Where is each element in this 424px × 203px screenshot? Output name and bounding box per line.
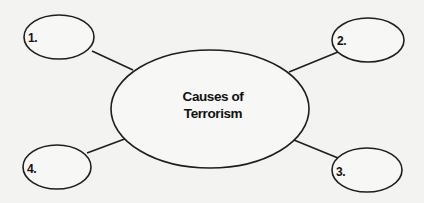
connector-4: [87, 137, 130, 153]
node-2-label: 2.: [337, 34, 346, 48]
node-1[interactable]: 1.: [24, 15, 94, 59]
concept-map: Causes of Terrorism 1. 2. 3. 4.: [0, 0, 424, 203]
center-title-line2: Terrorism: [184, 106, 243, 121]
node-4-label: 4.: [27, 162, 36, 176]
center-title-line1: Causes of: [183, 89, 245, 104]
node-2[interactable]: 2.: [332, 18, 404, 62]
connector-2: [289, 52, 338, 72]
node-4[interactable]: 4.: [23, 145, 91, 189]
connector-1: [92, 51, 133, 70]
center-node: Causes of Terrorism: [111, 50, 309, 168]
node-3[interactable]: 3.: [332, 148, 402, 192]
connector-3: [289, 138, 338, 158]
node-1-label: 1.: [28, 31, 37, 45]
node-3-label: 3.: [336, 165, 345, 179]
